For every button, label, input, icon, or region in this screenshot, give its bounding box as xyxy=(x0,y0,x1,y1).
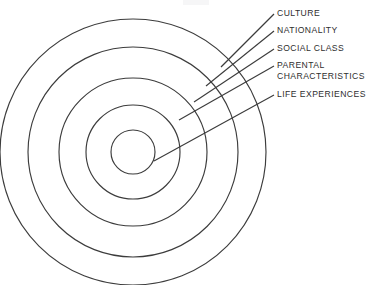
label-culture: CULTURE xyxy=(277,8,320,18)
concentric-circles-diagram: CULTURE NATIONALITY SOCIAL CLASS PARENTA… xyxy=(0,0,381,285)
ring-culture xyxy=(0,19,266,285)
diagram-figure: CULTURE NATIONALITY SOCIAL CLASS PARENTA… xyxy=(0,0,381,285)
leader-line-group xyxy=(154,14,274,161)
leader-line-culture xyxy=(221,14,274,67)
label-life-experiences: LIFE EXPERIENCES xyxy=(277,89,366,99)
label-group: CULTURE NATIONALITY SOCIAL CLASS PARENTA… xyxy=(277,8,366,99)
label-parental-line2: CHARACTERISTICS xyxy=(277,71,365,81)
leader-line-nationality xyxy=(206,31,274,86)
ring-life-experiences xyxy=(111,130,155,174)
ring-group xyxy=(0,19,266,285)
leader-line-social-class xyxy=(194,49,274,102)
label-social-class: SOCIAL CLASS xyxy=(277,43,344,53)
ring-social-class xyxy=(59,78,207,226)
leader-line-life-experiences xyxy=(154,95,274,161)
label-nationality: NATIONALITY xyxy=(277,25,338,35)
ring-parental-characteristics xyxy=(86,105,180,199)
label-parental-line1: PARENTAL xyxy=(277,60,325,70)
